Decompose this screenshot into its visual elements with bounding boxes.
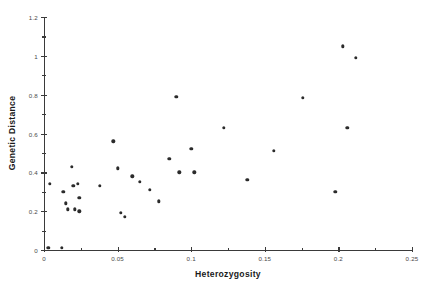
x-tick-label: 0 [42,255,46,262]
y-tick-minor [42,36,46,37]
y-tick-major [41,172,47,173]
y-tick-major [41,211,47,212]
data-point [245,178,248,181]
x-tick-label: 0.15 [258,255,271,262]
data-point [272,149,275,152]
x-tick-minor [228,248,229,251]
data-point [178,171,181,174]
x-tick-minor [302,248,303,251]
y-tick-minor [42,114,46,115]
y-tick-minor [42,192,46,193]
data-point [222,126,225,129]
scatter-plot: 00.050.10.150.20.2500.20.40.60.811.2 Het… [0,0,430,290]
y-tick-major [41,17,47,18]
data-point [64,202,67,205]
data-point [123,215,126,218]
x-tick-major [338,247,339,252]
x-tick-label: 0.2 [334,255,343,262]
data-point [192,171,195,174]
y-tick-label: 1 [34,52,38,59]
y-tick-label: 0.8 [29,91,38,98]
data-point [78,196,81,199]
y-tick-major [41,250,47,251]
data-point [111,140,114,143]
data-point [116,167,119,170]
y-tick-label: 0 [34,247,38,254]
data-point [76,182,79,185]
data-point [157,200,160,203]
y-tick-label: 0.4 [29,169,38,176]
data-point [341,44,344,47]
x-tick-label: 0.1 [187,255,196,262]
y-tick-label: 1.2 [29,14,38,21]
x-tick-major [412,247,413,252]
data-point [98,184,101,187]
data-point [73,208,76,211]
data-point [78,209,81,212]
x-axis-title: Heterozygosity [195,269,261,279]
data-point [301,96,304,99]
data-point [189,147,192,150]
y-tick-major [41,134,47,135]
y-tick-minor [42,153,46,154]
data-point [72,184,75,187]
x-tick-minor [154,248,155,251]
data-point [167,157,170,160]
x-tick-major [191,247,192,252]
x-tick-label: 0.25 [406,255,419,262]
x-tick-minor [81,248,82,251]
x-tick-major [118,247,119,252]
y-tick-minor [42,231,46,232]
y-axis-title: Genetic Distance [7,96,17,171]
y-tick-label: 0.2 [29,208,38,215]
data-point [175,95,178,98]
data-point [148,188,151,191]
y-tick-minor [42,75,46,76]
data-point [61,190,64,193]
data-point [138,180,141,183]
data-point [346,126,349,129]
data-point [70,165,73,168]
data-point [354,56,357,59]
data-point [119,211,122,214]
x-tick-major [265,247,266,252]
y-tick-major [41,95,47,96]
y-tick-label: 0.6 [29,130,38,137]
data-point [48,182,51,185]
x-tick-minor [375,248,376,251]
y-tick-major [41,56,47,57]
data-point [131,175,134,178]
data-point [66,208,69,211]
data-point [334,190,337,193]
x-tick-label: 0.05 [111,255,124,262]
